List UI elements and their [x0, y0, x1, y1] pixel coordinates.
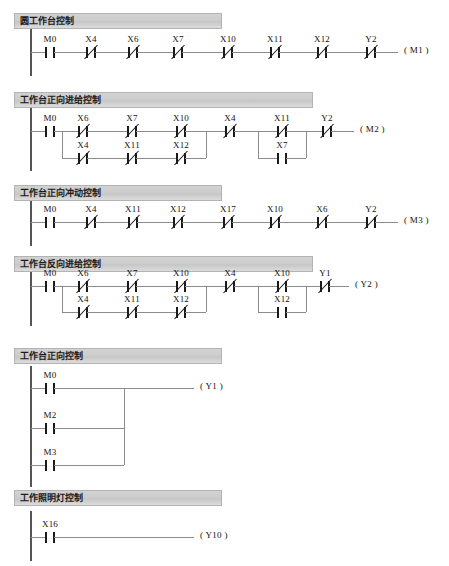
- device-label-X7: X7: [126, 268, 137, 278]
- device-label-X7: X7: [126, 113, 137, 123]
- coil-label-M1: ( M1 ): [404, 45, 429, 55]
- device-label-X6: X6: [77, 113, 88, 123]
- device-label-M0: M0: [44, 268, 57, 278]
- ladder-diagram: 圆工作台控制 工作台正向进给控制 工作台正向冲动控制 工作台反向进给控制 工作台…: [0, 0, 449, 566]
- coil-label-Y1: ( Y1 ): [200, 381, 223, 391]
- device-label-X6: X6: [316, 204, 327, 214]
- device-label-M2: M2: [44, 410, 57, 420]
- device-label-X12: X12: [173, 294, 189, 304]
- device-label-X4: X4: [77, 294, 88, 304]
- device-label-X16: X16: [42, 519, 58, 529]
- device-label-X6: X6: [77, 268, 88, 278]
- device-label-X10: X10: [220, 34, 236, 44]
- device-label-X11: X11: [124, 140, 140, 150]
- device-label-X4: X4: [77, 140, 88, 150]
- device-label-X12: X12: [170, 204, 186, 214]
- device-label-X7: X7: [276, 140, 287, 150]
- device-label-X4: X4: [224, 113, 235, 123]
- device-label-X11: X11: [124, 294, 140, 304]
- device-label-Y2: Y2: [321, 113, 332, 123]
- coil-label-M2: ( M2 ): [360, 124, 385, 134]
- coil-label-Y2: ( Y2 ): [355, 279, 378, 289]
- device-label-Y2: Y2: [365, 34, 376, 44]
- device-label-X12: X12: [314, 34, 330, 44]
- device-label-X10: X10: [274, 268, 290, 278]
- device-label-M3: M3: [44, 447, 57, 457]
- device-label-X11: X11: [274, 113, 290, 123]
- device-label-X12: X12: [173, 140, 189, 150]
- device-label-X11: X11: [125, 204, 141, 214]
- device-label-M0: M0: [44, 204, 57, 214]
- device-label-X17: X17: [220, 204, 236, 214]
- device-label-X7: X7: [172, 34, 183, 44]
- device-label-M0: M0: [44, 34, 57, 44]
- device-label-X6: X6: [127, 34, 138, 44]
- device-label-M0: M0: [44, 113, 57, 123]
- device-label-M0: M0: [44, 370, 57, 380]
- device-label-X10: X10: [173, 113, 189, 123]
- device-label-X10: X10: [173, 268, 189, 278]
- coil-label-M3: ( M3 ): [404, 215, 429, 225]
- device-label-X12: X12: [274, 294, 290, 304]
- device-label-X4: X4: [85, 34, 96, 44]
- device-label-Y2: Y2: [365, 204, 376, 214]
- device-label-X4: X4: [85, 204, 96, 214]
- device-label-X4: X4: [224, 268, 235, 278]
- device-label-X11: X11: [267, 34, 283, 44]
- coil-label-Y10: ( Y10 ): [200, 530, 228, 540]
- device-label-X10: X10: [267, 204, 283, 214]
- device-label-layer: M0X4X6X7X10X11X12Y2( M1 )M0X6X7X10X4X11X…: [0, 0, 449, 566]
- device-label-Y1: Y1: [319, 268, 330, 278]
